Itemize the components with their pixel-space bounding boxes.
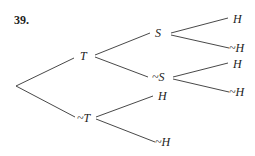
edge-notT-notH [96,119,155,142]
node-notS: ~S [152,70,165,84]
edge-root-T [16,58,74,86]
node-notT-notH: ~H [155,135,171,149]
node-notT: ~T [77,111,91,125]
edge-notS-notH [173,79,229,92]
edge-S-notH [171,35,229,48]
edge-notT-H [96,96,153,117]
node-T-S-notH: ~H [229,41,245,55]
node-S: S [155,26,161,40]
problem-number: 39. [14,13,29,27]
edge-T-notS [95,57,148,77]
tree-diagram: 39. T ~T S ~S H ~H H ~H H ~H [0,0,255,156]
edge-notS-H [173,63,228,77]
node-T-notS-H: H [232,57,243,71]
node-T-S-H: H [232,12,243,26]
edge-root-notT [16,86,75,117]
edge-S-H [171,18,228,33]
edge-T-S [95,33,150,55]
node-notT-H: H [157,89,168,103]
node-T-notS-notH: ~H [229,85,245,99]
node-T: T [80,49,88,63]
